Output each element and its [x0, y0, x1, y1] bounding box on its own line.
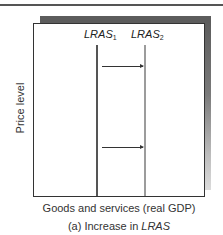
lower-shift-arrow: [102, 147, 143, 148]
lras1-label: LRAS1: [84, 28, 117, 41]
lras2-label: LRAS2: [131, 28, 164, 41]
top-rule: [0, 4, 223, 6]
x-axis-label: Goods and services (real GDP): [33, 202, 205, 214]
figure-caption: (a) Increase in LRAS: [33, 220, 205, 232]
plot-shadow-top: [40, 16, 211, 23]
lras2-curve: [144, 45, 146, 196]
upper-shift-arrow: [102, 66, 143, 67]
plot-area: LRAS1 LRAS2: [33, 23, 205, 197]
lras1-curve: [96, 45, 98, 196]
y-axis-label: Price level: [14, 83, 26, 134]
